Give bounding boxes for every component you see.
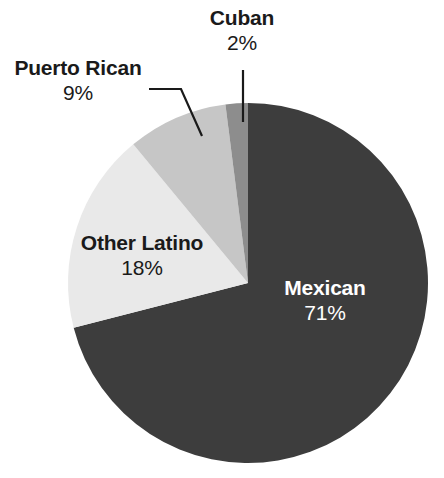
slice-label-cuban: Cuban 2%: [186, 6, 298, 54]
slice-label-other-latino-value: 18%: [62, 256, 222, 280]
slice-label-cuban-category: Cuban: [186, 6, 298, 30]
slice-label-puerto-rican: Puerto Rican 9%: [2, 56, 154, 104]
pie-chart: Cuban 2% Puerto Rican 9% Other Latino 18…: [0, 0, 444, 478]
slice-label-other-latino: Other Latino 18%: [62, 231, 222, 279]
slice-label-cuban-value: 2%: [186, 31, 298, 55]
slice-label-mexican-category: Mexican: [256, 276, 394, 300]
slice-label-puerto-rican-value: 9%: [2, 81, 154, 105]
slice-label-puerto-rican-category: Puerto Rican: [2, 56, 154, 80]
slice-label-mexican-value: 71%: [256, 301, 394, 325]
slice-label-other-latino-category: Other Latino: [62, 231, 222, 255]
slice-label-mexican: Mexican 71%: [256, 276, 394, 324]
